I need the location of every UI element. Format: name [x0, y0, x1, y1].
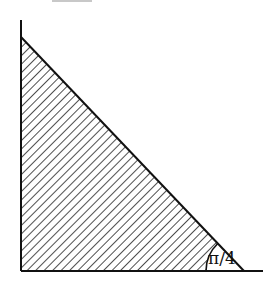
triangle-diagram: π/4 [0, 0, 278, 285]
angle-label: π/4 [208, 248, 236, 268]
cropped-caption [52, 0, 92, 2]
